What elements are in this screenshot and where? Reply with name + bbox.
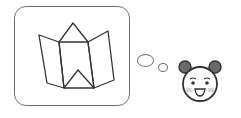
folded-map-icon xyxy=(15,7,131,107)
panda-face-icon xyxy=(176,59,224,107)
thought-bubble-box xyxy=(14,6,130,106)
thought-bubble-small-dot xyxy=(158,63,168,72)
thought-bubble-large-dot xyxy=(137,54,154,67)
